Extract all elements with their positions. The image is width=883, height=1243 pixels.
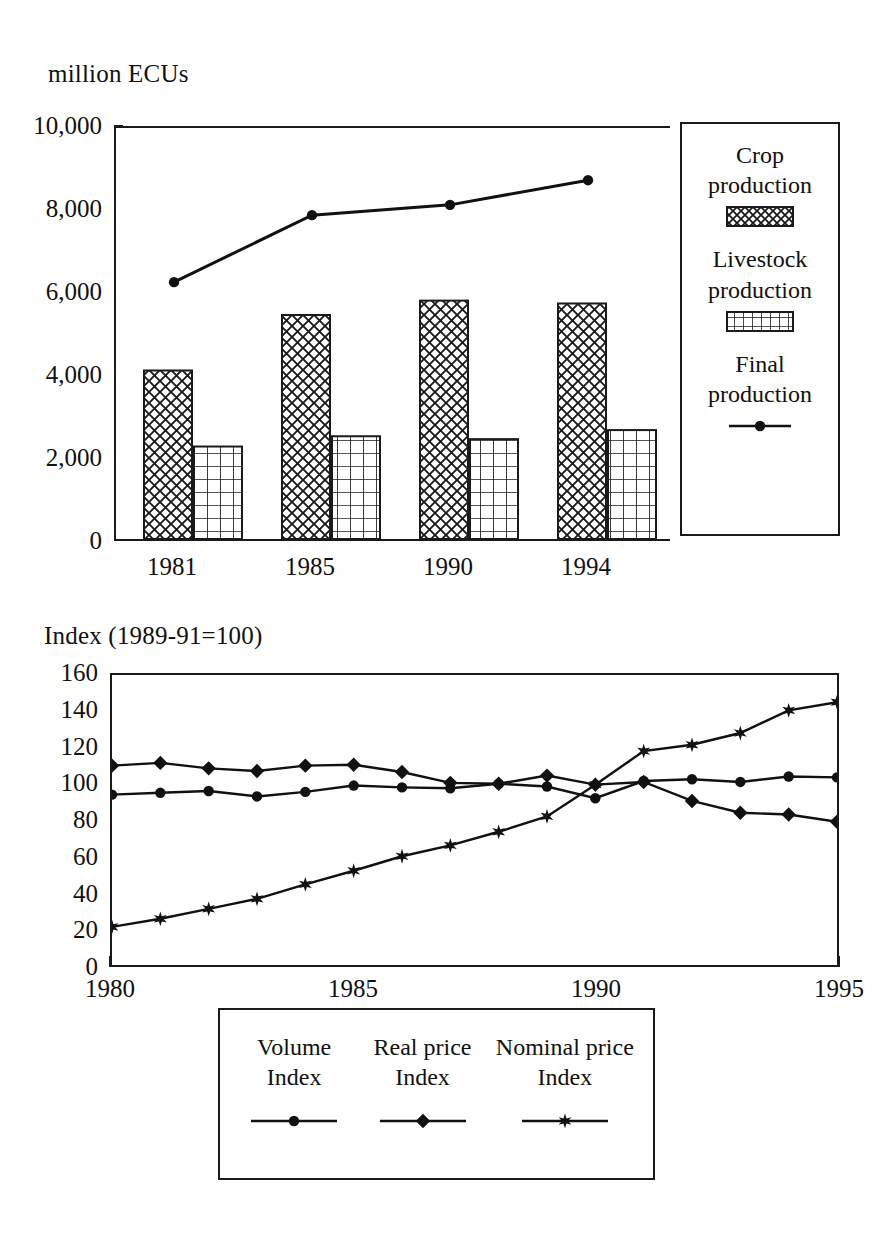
line-legend-entry-label-line1: Real price <box>374 1032 472 1062</box>
bar-chart-y-tick: 4,000 <box>0 361 102 389</box>
crosshatch-swatch <box>725 203 795 229</box>
line-chart-y-tick: 20 <box>0 916 98 944</box>
bar-chart-x-tick: 1990 <box>423 553 473 581</box>
line-diamond-swatch <box>368 1106 478 1136</box>
bar-chart-y-tick: 10,000 <box>0 112 102 140</box>
line-chart-unit-label: Index (1989-91=100) <box>44 622 263 650</box>
line-legend-entry-label-line2: Index <box>538 1062 593 1092</box>
line-circle-swatch <box>239 1106 349 1136</box>
bar-legend-entry-label-line1: Livestock <box>713 244 808 274</box>
line-chart-y-tick: 40 <box>0 880 98 908</box>
bar-chart-canvas <box>116 128 668 539</box>
line-chart-legend: VolumeIndexReal priceIndexNominal priceI… <box>218 1008 655 1180</box>
grid-swatch <box>725 308 795 334</box>
line-chart-y-tick: 140 <box>0 696 98 724</box>
line-legend-entry[interactable]: Nominal priceIndex <box>496 1032 634 1141</box>
bar-legend-entry[interactable]: Livestockproduction <box>688 244 832 338</box>
line-legend-entry[interactable]: Real priceIndex <box>368 1032 478 1141</box>
line-legend-entry[interactable]: VolumeIndex <box>239 1032 349 1141</box>
bar-legend-entry[interactable]: Finalproduction <box>688 349 832 443</box>
bar-chart-plot-area <box>114 126 670 541</box>
bar-legend-entry-label-line1: Crop <box>736 140 784 170</box>
line-chart-x-tick: 1980 <box>85 975 135 1003</box>
bar-chart-legend: CropproductionLivestockproductionFinalpr… <box>680 122 840 536</box>
line-chart-y-tick: 120 <box>0 733 98 761</box>
line-chart-canvas <box>112 675 837 965</box>
line-chart-plot-area <box>110 673 839 967</box>
line-chart-y-tick: 0 <box>0 953 98 981</box>
line-star-swatch <box>510 1106 620 1136</box>
bar-chart-x-tick: 1994 <box>561 553 611 581</box>
bar-legend-entry-label-line2: production <box>708 379 812 409</box>
bar-chart-y-tick: 6,000 <box>0 278 102 306</box>
bar-chart-unit-label: million ECUs <box>48 60 189 88</box>
bar-legend-entry-label-line1: Final <box>735 349 784 379</box>
line-chart-y-tick: 100 <box>0 769 98 797</box>
line-legend-entry-label-line2: Index <box>267 1062 322 1092</box>
line-legend-entry-label-line1: Nominal price <box>496 1032 634 1062</box>
bar-chart-y-tick: 8,000 <box>0 195 102 223</box>
line-marker-swatch <box>725 412 795 438</box>
figure-page: million ECUs 02,0004,0006,0008,00010,000… <box>0 0 883 1243</box>
line-chart-y-tick: 160 <box>0 659 98 687</box>
bar-chart-x-tick: 1981 <box>147 553 197 581</box>
bar-legend-entry-label-line2: production <box>708 275 812 305</box>
bar-legend-entry[interactable]: Cropproduction <box>688 140 832 234</box>
line-chart-y-tick: 60 <box>0 843 98 871</box>
bar-legend-entry-label-line2: production <box>708 170 812 200</box>
line-chart-x-tick: 1995 <box>814 975 864 1003</box>
line-legend-entry-label-line1: Volume <box>257 1032 331 1062</box>
line-chart-y-tick: 80 <box>0 806 98 834</box>
bar-chart-x-tick: 1985 <box>285 553 335 581</box>
line-chart-x-tick: 1985 <box>328 975 378 1003</box>
line-chart-x-tick: 1990 <box>571 975 621 1003</box>
bar-chart-y-tick: 0 <box>0 527 102 555</box>
line-legend-entry-label-line2: Index <box>395 1062 450 1092</box>
bar-chart-y-tick: 2,000 <box>0 444 102 472</box>
